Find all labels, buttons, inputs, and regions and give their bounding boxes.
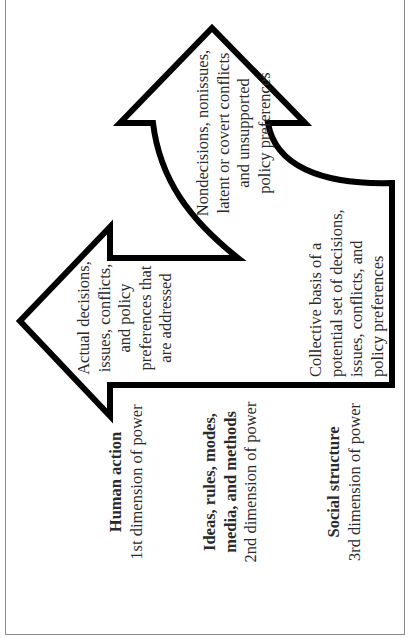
base-label-line: potential set of decisions,	[327, 207, 348, 377]
dimension-1-title: Human action	[106, 392, 127, 572]
left-arrow-label-line: are addressed	[156, 254, 177, 382]
dimension-2-label: Ideas, rules, modes, media, and methods …	[200, 392, 262, 572]
base-label-line: Collective basis of a	[306, 207, 327, 377]
left-arrow-label-line: issues, conflicts,	[95, 254, 116, 382]
upper-arrow-label-line: Nondecisions, nonissues,	[193, 44, 214, 222]
dimension-1-label: Human action 1st dimension of power	[106, 392, 147, 572]
dimension-3-subtitle: 3rd dimension of power	[345, 392, 366, 572]
dimension-2-title-line: media, and methods	[221, 392, 242, 572]
dimension-1-subtitle: 1st dimension of power	[127, 392, 148, 572]
dimension-3-title: Social structure	[324, 392, 345, 572]
upper-arrow-label-line: policy preferences	[255, 44, 276, 222]
upper-arrow-label: Nondecisions, nonissues, latent or cover…	[193, 44, 275, 222]
left-arrow-label-line: preferences that	[136, 254, 157, 382]
dimension-3-label: Social structure 3rd dimension of power	[324, 392, 365, 572]
dimension-2-title-line: Ideas, rules, modes,	[200, 392, 221, 572]
left-arrow-label: Actual decisions, issues, conflicts, and…	[74, 254, 177, 382]
dimension-2-subtitle: 2nd dimension of power	[241, 392, 262, 572]
left-arrow-label-line: and policy	[115, 254, 136, 382]
upper-arrow-label-line: latent or covert conflicts	[214, 44, 235, 222]
base-label-line: policy preferences	[368, 207, 389, 377]
left-arrow-label-line: Actual decisions,	[74, 254, 95, 382]
upper-arrow-label-line: and unsupported	[234, 44, 255, 222]
base-label-line: issues, conflicts, and	[347, 207, 368, 377]
base-label: Collective basis of a potential set of d…	[306, 207, 388, 377]
